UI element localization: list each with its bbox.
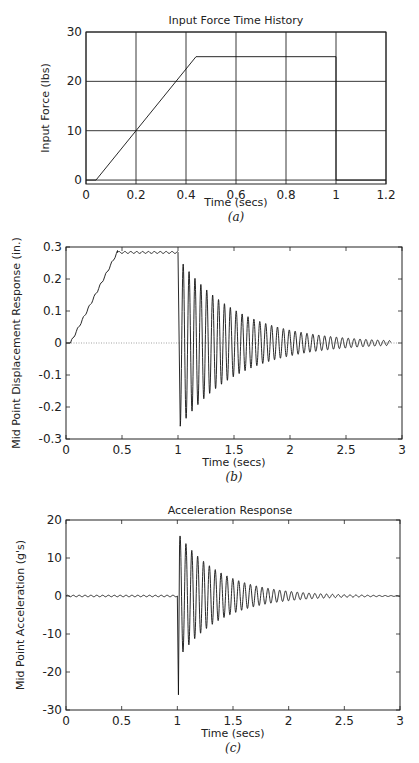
x-tick-label: 0: [62, 714, 70, 728]
x-tick-label: 3: [398, 443, 406, 457]
x-tick-label: 1.2: [376, 188, 395, 202]
y-tick-label: 30: [67, 25, 82, 39]
y-tick-label: 10: [67, 124, 82, 138]
x-tick-label: 0.2: [126, 188, 145, 202]
y-tick-label: 0.2: [43, 272, 62, 286]
figure: Input Force Time History 00.20.40.60.811…: [0, 0, 419, 763]
y-tick-label: 0: [74, 173, 82, 187]
chart-displacement: 00.511.522.53 -0.3-0.2-0.100.10.20.3 Tim…: [10, 237, 406, 484]
x-tick-labels: 00.511.522.53: [62, 443, 406, 457]
x-tick-label: 0.5: [112, 714, 131, 728]
x-axis-label: Time (secs): [203, 196, 267, 209]
series: [66, 536, 400, 695]
x-tick-label: 2: [285, 714, 293, 728]
y-tick-label: 0: [54, 336, 62, 350]
x-tick-label: 0: [82, 188, 90, 202]
x-tick-label: 1: [332, 188, 340, 202]
chart-acceleration: Acceleration Response 00.511.522.53 -30-…: [14, 504, 404, 755]
x-tick-label: 2: [286, 443, 294, 457]
chart-caption: (c): [225, 741, 241, 755]
series: [66, 251, 402, 427]
y-tick-label: -0.2: [39, 400, 62, 414]
y-tick-label: 0: [54, 589, 62, 603]
chart-caption: (a): [228, 210, 245, 224]
chart-input-force: Input Force Time History 00.20.40.60.811…: [39, 14, 396, 224]
y-tick-label: 20: [47, 513, 62, 527]
y-axis-label: Mid Point Displacement Response (in.): [10, 237, 23, 448]
series-line-displacement: [66, 251, 391, 427]
x-tick-labels: 00.511.522.53: [62, 714, 404, 728]
x-tick-label: 0.4: [176, 188, 195, 202]
y-tick-labels: -0.3-0.2-0.100.10.20.3: [39, 240, 62, 446]
chart-title: Acceleration Response: [168, 504, 293, 517]
x-tick-label: 3: [396, 714, 404, 728]
grid-lines: [86, 32, 386, 184]
y-tick-label: -0.3: [39, 432, 62, 446]
y-tick-label: 10: [47, 551, 62, 565]
y-tick-label: 0.3: [43, 240, 62, 254]
y-tick-labels: -30-20-1001020: [42, 513, 62, 717]
y-axis-label: Input Force (lbs): [39, 63, 52, 153]
x-tick-label: 1.5: [224, 443, 243, 457]
x-tick-label: 1.5: [223, 714, 242, 728]
y-tick-labels: 0102030: [67, 25, 82, 187]
y-tick-label: 20: [67, 74, 82, 88]
chart-caption: (b): [225, 470, 242, 484]
series-line-acceleration: [66, 536, 400, 695]
x-tick-label: 2.5: [336, 443, 355, 457]
ticks: [66, 520, 400, 710]
x-axis-label: Time (secs): [201, 456, 265, 469]
y-tick-label: -20: [42, 665, 62, 679]
chart-title: Input Force Time History: [169, 14, 304, 27]
x-tick-label: 0.8: [276, 188, 295, 202]
y-axis-label: Mid Point Acceleration (g's): [14, 540, 27, 690]
y-tick-label: 0.1: [43, 304, 62, 318]
x-tick-label: 2.5: [335, 714, 354, 728]
x-tick-label: 1: [174, 443, 182, 457]
x-tick-label: 0: [62, 443, 70, 457]
y-tick-label: -30: [42, 703, 62, 717]
x-tick-label: 0.5: [112, 443, 131, 457]
x-axis-label: Time (secs): [200, 727, 264, 740]
y-tick-label: -10: [42, 627, 62, 641]
x-tick-label: 1: [174, 714, 182, 728]
y-tick-label: -0.1: [39, 368, 62, 382]
plot-frame: [66, 520, 400, 710]
